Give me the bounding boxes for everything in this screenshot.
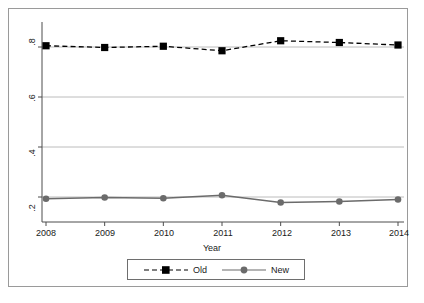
- series-old: [42, 37, 401, 54]
- marker-new-2010: [160, 195, 167, 202]
- axis-ticks: [38, 47, 398, 226]
- legend-item-new[interactable]: New: [221, 264, 289, 276]
- x-tick-label-2009: 2009: [88, 228, 122, 238]
- y-tick-label-1: .4: [27, 145, 37, 161]
- chart-figure: .2 .4 .6 .8 2008 2009 2010 2011 2012 201…: [0, 0, 424, 303]
- marker-new-2009: [101, 194, 108, 201]
- marker-old-2011: [218, 47, 225, 54]
- legend-key-new-icon: [221, 264, 267, 276]
- x-tick-label-2014: 2014: [382, 228, 416, 238]
- marker-new-2014: [395, 196, 402, 203]
- marker-new-2013: [336, 198, 343, 205]
- marker-old-2012: [277, 37, 284, 44]
- series-new: [43, 192, 402, 206]
- marker-new-2012: [277, 199, 284, 206]
- legend-key-old-icon: [143, 264, 189, 276]
- marker-new-2008: [43, 195, 50, 202]
- marker-new-2011: [219, 192, 226, 199]
- x-tick-label-2011: 2011: [206, 228, 240, 238]
- marker-old-2014: [394, 41, 401, 48]
- y-tick-label-0: .2: [27, 200, 37, 216]
- plot-canvas: [0, 0, 424, 303]
- x-axis-title: Year: [0, 243, 424, 253]
- x-tick-label-2008: 2008: [29, 228, 63, 238]
- legend-item-old[interactable]: Old: [143, 264, 207, 276]
- chart-legend: Old New: [127, 259, 305, 280]
- x-tick-label-2012: 2012: [265, 228, 299, 238]
- marker-old-2008: [42, 42, 49, 49]
- x-tick-label-2013: 2013: [324, 228, 358, 238]
- legend-label-old: Old: [193, 265, 207, 275]
- y-tick-label-2: .6: [27, 90, 37, 106]
- legend-label-new: New: [271, 265, 289, 275]
- x-tick-label-2010: 2010: [147, 228, 181, 238]
- y-tick-label-3: .8: [27, 34, 37, 50]
- marker-old-2009: [101, 44, 108, 51]
- marker-old-2010: [160, 43, 167, 50]
- marker-old-2013: [336, 39, 343, 46]
- gridlines: [42, 47, 404, 197]
